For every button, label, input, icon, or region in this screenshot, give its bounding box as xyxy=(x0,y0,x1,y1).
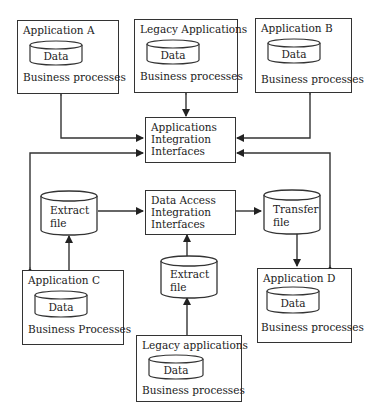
business-processes-label: Business Processes xyxy=(28,323,131,335)
extract-file-bottom-node: Extract file xyxy=(160,255,218,299)
application-d-node: Application D Data Business processes xyxy=(257,268,352,343)
business-processes-label: Business processes xyxy=(142,384,245,396)
business-processes-label: Business processes xyxy=(140,70,243,82)
data-access-integration-interfaces-node: Data Access Integration Interfaces xyxy=(145,190,236,235)
applications-integration-interfaces-node: Applications Integration Interfaces xyxy=(145,117,236,163)
data-label: Data xyxy=(266,297,320,309)
extract-file-left-line-1: Extract xyxy=(50,204,89,217)
application-a-title: Application A xyxy=(23,24,94,36)
legacy-applications-title: Legacy applications xyxy=(142,339,248,351)
data-label: Data xyxy=(267,48,321,60)
aii-line-2: Integration xyxy=(151,133,217,145)
application-a-node: Application A Data Business processes xyxy=(17,20,119,94)
database-icon: Data xyxy=(148,354,204,380)
business-processes-label: Business processes xyxy=(261,321,364,333)
data-label: Data xyxy=(148,364,204,376)
application-c-title: Application C xyxy=(28,274,100,286)
application-d-title: Application D xyxy=(263,272,335,284)
daii-line-3: Interfaces xyxy=(151,218,216,230)
database-icon: Data xyxy=(266,286,320,314)
aii-line-3: Interfaces xyxy=(151,145,217,157)
transfer-file-line-1: Transfer xyxy=(273,203,319,216)
legacy-applications-top-node: Legacy Applications Data Business proces… xyxy=(134,19,238,93)
extract-file-left-line-2: file xyxy=(50,217,89,230)
database-icon: Data xyxy=(29,40,83,66)
edge-app-a-aii xyxy=(61,95,143,138)
database-icon: Data xyxy=(267,38,321,64)
transfer-file-line-2: file xyxy=(273,216,319,229)
business-processes-label: Business processes xyxy=(23,71,126,83)
aii-line-1: Applications xyxy=(151,121,217,133)
business-processes-label: Business processes xyxy=(261,73,364,85)
legacy-applications-bottom-node: Legacy applications Data Business proces… xyxy=(136,335,242,402)
data-label: Data xyxy=(146,49,200,61)
data-label: Data xyxy=(29,50,83,62)
daii-line-1: Data Access xyxy=(151,194,216,206)
extract-file-bottom-line-1: Extract xyxy=(170,268,209,281)
application-c-node: Application C Data Business Processes xyxy=(22,270,124,345)
application-b-title: Application B xyxy=(261,22,333,34)
daii-line-2: Integration xyxy=(151,206,216,218)
extract-file-bottom-line-2: file xyxy=(170,281,209,294)
application-b-node: Application B Data Business processes xyxy=(255,18,352,93)
edge-app-b-aii xyxy=(237,94,310,138)
database-icon: Data xyxy=(34,290,88,318)
data-label: Data xyxy=(34,301,88,313)
transfer-file-node: Transfer file xyxy=(263,189,321,235)
extract-file-left-node: Extract file xyxy=(40,190,98,236)
legacy-applications-title: Legacy Applications xyxy=(140,23,247,35)
database-icon: Data xyxy=(146,39,200,65)
